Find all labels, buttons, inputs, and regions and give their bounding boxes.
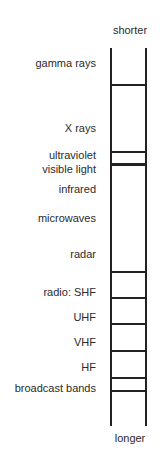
band-label: VHF	[74, 336, 96, 348]
band-label: microwaves	[38, 212, 96, 224]
band-divider	[110, 323, 147, 325]
band-label: radio: SHF	[43, 286, 96, 298]
band-divider	[110, 271, 147, 273]
band-label: gamma rays	[35, 57, 96, 69]
band-label: broadcast bands	[15, 382, 96, 394]
band-divider	[110, 163, 147, 166]
wavelength-longer-label: longer	[100, 432, 160, 444]
band-divider	[110, 377, 147, 379]
ladder-right-rail	[145, 48, 147, 426]
band-divider	[110, 297, 147, 299]
wavelength-shorter-label: shorter	[100, 24, 160, 36]
band-label: ultraviolet	[49, 149, 96, 161]
band-label: UHF	[73, 311, 96, 323]
band-divider	[110, 390, 147, 392]
band-divider	[110, 84, 147, 86]
band-label: HF	[81, 361, 96, 373]
band-label: visible light	[42, 163, 96, 175]
band-divider	[110, 350, 147, 352]
band-divider	[110, 151, 147, 153]
band-label: radar	[70, 248, 96, 260]
ladder-left-rail	[110, 48, 112, 426]
band-label: infrared	[59, 183, 96, 195]
band-label: X rays	[65, 122, 96, 134]
